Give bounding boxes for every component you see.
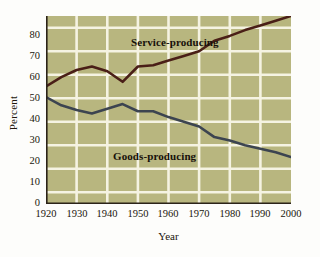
y-tick-label: 30 [0,135,40,145]
x-axis-label: Year [46,230,291,242]
y-tick-label: 70 [0,51,40,61]
y-tick-label: 20 [0,156,40,166]
y-tick-label: 10 [0,177,40,187]
x-tick-label: 2000 [271,208,311,219]
y-tick-label: 60 [0,72,40,82]
chart-container: Percent 80 70 60 50 40 30 20 10 0 [0,0,320,257]
y-tick-label: 50 [0,93,40,103]
y-tick-label: 40 [0,114,40,124]
series-annotation-service-producing: Service-producing [131,36,219,48]
y-tick-label: 0 [0,198,40,208]
series-annotation-goods-producing: Goods-producing [113,150,196,162]
y-tick-label: 80 [0,30,40,40]
